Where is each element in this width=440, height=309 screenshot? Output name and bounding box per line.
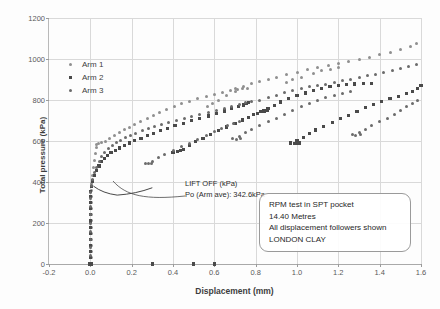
- test-note-box: RPM test in SPT pocket 14.40 Metres All …: [259, 193, 411, 252]
- data-point: [389, 51, 392, 54]
- data-point: [147, 127, 150, 130]
- data-point: [158, 111, 161, 114]
- data-point: [415, 42, 418, 45]
- data-point: [100, 141, 103, 144]
- legend-label-arm2: Arm 2: [82, 73, 103, 82]
- x-tick-label: 0.2: [126, 268, 136, 277]
- data-point: [152, 114, 155, 117]
- gridline-horizontal: [49, 100, 421, 101]
- data-point: [95, 146, 98, 149]
- data-point: [109, 151, 112, 154]
- data-point: [382, 71, 385, 74]
- data-point: [308, 102, 311, 105]
- legend-label-arm3: Arm 3: [82, 86, 103, 95]
- data-point: [275, 94, 278, 97]
- data-point: [322, 125, 325, 128]
- data-point: [225, 94, 228, 97]
- x-tick-label: 0.8: [250, 268, 260, 277]
- data-point: [207, 111, 210, 114]
- x-tick-mark: [421, 264, 422, 267]
- data-point: [128, 141, 131, 144]
- note-line-2: 14.40 Metres: [269, 211, 403, 223]
- data-point: [308, 85, 311, 88]
- x-tick-label: 1.0: [292, 268, 302, 277]
- legend-item-arm1: Arm 1: [66, 58, 103, 71]
- y-tick-mark: [46, 59, 49, 60]
- data-point: [250, 100, 253, 103]
- data-point: [89, 238, 92, 241]
- data-point: [172, 149, 175, 152]
- x-tick-mark: [380, 264, 381, 267]
- data-point: [182, 122, 185, 125]
- y-tick-label: 1000: [28, 55, 45, 64]
- data-point: [353, 82, 356, 85]
- gridline-vertical: [214, 18, 215, 264]
- data-point: [123, 144, 126, 147]
- data-point: [347, 60, 350, 63]
- data-point: [160, 123, 163, 126]
- data-point: [139, 137, 142, 140]
- data-point: [223, 107, 226, 110]
- data-point: [258, 99, 261, 102]
- data-point: [123, 128, 126, 131]
- data-point: [234, 87, 237, 90]
- chart-legend: Arm 1 Arm 2 Arm 3: [66, 58, 103, 97]
- data-point: [244, 131, 247, 134]
- data-point: [347, 114, 350, 117]
- data-point: [339, 117, 342, 120]
- pressuremeter-chart: Total pressure (kPa) 0200400600800100012…: [0, 0, 440, 309]
- gridline-vertical: [173, 18, 174, 264]
- data-point: [374, 73, 377, 76]
- data-point: [190, 119, 193, 122]
- data-point: [386, 117, 389, 120]
- data-point: [146, 117, 149, 120]
- data-point: [370, 124, 373, 127]
- data-point: [302, 136, 305, 139]
- liftoff-callout-line1: LIFT OFF (kPa): [185, 178, 265, 189]
- data-point: [267, 96, 270, 99]
- data-point: [239, 137, 242, 140]
- data-point: [341, 79, 344, 82]
- data-point: [380, 100, 383, 103]
- data-point: [183, 117, 186, 120]
- data-point: [152, 132, 155, 135]
- data-point: [133, 139, 136, 142]
- data-point: [327, 64, 330, 67]
- x-tick-label: -0.2: [43, 268, 56, 277]
- y-tick-mark: [46, 18, 49, 19]
- data-point: [173, 124, 176, 127]
- data-point: [296, 71, 299, 74]
- data-point: [129, 134, 132, 137]
- data-point: [89, 246, 92, 249]
- data-point: [320, 69, 323, 72]
- data-point: [141, 129, 144, 132]
- data-point: [285, 81, 288, 84]
- liftoff-callout: LIFT OFF (kPa) Po (Arm ave): 342.6kPa: [185, 178, 265, 200]
- gridline-horizontal: [49, 59, 421, 60]
- y-tick-label: 200: [32, 219, 45, 228]
- x-tick-mark: [338, 264, 339, 267]
- data-point: [226, 124, 229, 127]
- legend-item-arm2: Arm 2: [66, 71, 103, 84]
- data-point: [221, 91, 224, 94]
- x-tick-mark: [256, 264, 257, 267]
- data-point: [364, 106, 367, 109]
- data-point: [173, 105, 176, 108]
- data-point: [283, 113, 286, 116]
- x-tick-mark: [49, 264, 50, 267]
- data-point: [291, 89, 294, 92]
- arm1-marker-icon: [66, 63, 75, 66]
- data-point: [209, 133, 212, 136]
- data-point: [89, 230, 92, 233]
- data-point: [405, 105, 408, 108]
- data-point: [223, 109, 226, 112]
- data-point: [283, 91, 286, 94]
- data-point: [231, 137, 234, 140]
- data-point: [300, 76, 303, 79]
- data-point: [89, 197, 92, 200]
- data-point: [151, 262, 154, 265]
- data-point: [215, 109, 218, 112]
- data-point: [273, 104, 276, 107]
- data-point: [295, 94, 298, 97]
- data-point: [146, 134, 149, 137]
